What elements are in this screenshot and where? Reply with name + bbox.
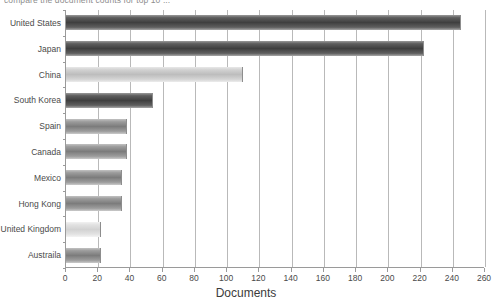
value-tick (97, 268, 98, 272)
bar[interactable] (66, 41, 424, 56)
category-tick (63, 10, 66, 11)
category-tick (63, 165, 66, 166)
gridline (485, 10, 486, 267)
chart-caption: compare the document counts for top 10 .… (4, 0, 170, 5)
bar[interactable] (66, 222, 101, 237)
bar-row (66, 165, 484, 191)
value-tick (355, 268, 356, 272)
bar[interactable] (66, 170, 122, 185)
x-axis-title: Documents (0, 286, 492, 300)
bar[interactable] (66, 248, 101, 263)
value-tick-label: 140 (284, 273, 298, 283)
bar-row (66, 216, 484, 242)
bar[interactable] (66, 144, 127, 159)
value-tick (323, 268, 324, 272)
value-tick (226, 268, 227, 272)
value-tick (65, 268, 66, 272)
category-label: Mexico (0, 173, 61, 183)
category-label: Hong Kong (0, 199, 61, 209)
bar[interactable] (66, 67, 243, 82)
value-tick-label: 160 (316, 273, 330, 283)
value-tick-label: 80 (189, 273, 198, 283)
value-tick (162, 268, 163, 272)
category-label: Japan (0, 44, 61, 54)
category-label: Spain (0, 121, 61, 131)
category-label: China (0, 70, 61, 80)
category-tick (63, 242, 66, 243)
value-tick (484, 268, 485, 272)
bar-row (66, 113, 484, 139)
bar[interactable] (66, 119, 127, 134)
bar-row (66, 36, 484, 62)
category-tick (63, 113, 66, 114)
value-tick-label: 180 (348, 273, 362, 283)
bar[interactable] (66, 15, 461, 30)
value-tick (258, 268, 259, 272)
value-tick-label: 40 (125, 273, 134, 283)
value-tick-label: 20 (92, 273, 101, 283)
value-tick (387, 268, 388, 272)
category-label: Austraila (0, 250, 61, 260)
category-tick (63, 36, 66, 37)
category-label: United States (0, 18, 61, 28)
value-tick (452, 268, 453, 272)
category-label: United Kingdom (0, 224, 61, 234)
value-tick-label: 200 (380, 273, 394, 283)
bar[interactable] (66, 196, 122, 211)
value-tick (129, 268, 130, 272)
category-label: Canada (0, 147, 61, 157)
bar-row (66, 139, 484, 165)
value-tick-label: 260 (477, 273, 491, 283)
category-label: South Korea (0, 95, 61, 105)
bar-row (66, 87, 484, 113)
value-tick (420, 268, 421, 272)
bar-chart: compare the document counts for top 10 .… (0, 0, 492, 307)
value-axis: 020406080100120140160180200220240260 (65, 268, 484, 280)
bar-row (66, 10, 484, 36)
value-tick-label: 0 (63, 273, 68, 283)
category-tick (63, 216, 66, 217)
category-tick (63, 139, 66, 140)
bar-row (66, 242, 484, 268)
category-tick (63, 87, 66, 88)
bar-row (66, 62, 484, 88)
value-tick-label: 100 (219, 273, 233, 283)
value-tick-label: 220 (412, 273, 426, 283)
value-tick-label: 120 (251, 273, 265, 283)
value-tick-label: 240 (445, 273, 459, 283)
value-tick (291, 268, 292, 272)
category-axis-labels: United StatesJapanChinaSouth KoreaSpainC… (0, 10, 61, 268)
value-tick (194, 268, 195, 272)
plot-area (65, 10, 484, 268)
category-tick (63, 191, 66, 192)
bar-row (66, 191, 484, 217)
bar[interactable] (66, 93, 153, 108)
category-tick (63, 62, 66, 63)
value-tick-label: 60 (157, 273, 166, 283)
